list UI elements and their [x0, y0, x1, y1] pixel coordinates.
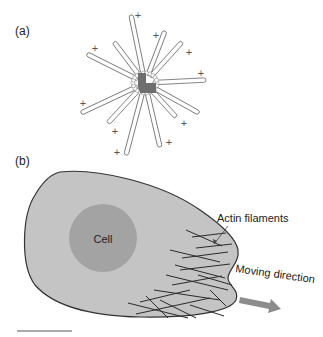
microtubule-aster [80, 15, 206, 156]
plus-end-marker: + [198, 67, 204, 79]
plus-end-marker: + [135, 9, 141, 21]
plus-end-marker: + [181, 117, 187, 129]
plus-end-marker: + [80, 97, 86, 109]
plus-end-marker: + [112, 125, 118, 137]
actin-filaments-label: Actin filaments [217, 212, 289, 224]
plus-end-marker: + [166, 136, 172, 148]
nucleus-label: Cell [94, 233, 113, 245]
moving-direction-arrow [239, 297, 281, 313]
panel-a-label: (a) [15, 24, 30, 38]
plus-end-marker: + [92, 42, 98, 54]
panel-b-label: (b) [15, 154, 30, 168]
plus-end-marker: + [153, 29, 159, 41]
plus-end-marker: + [114, 146, 120, 158]
pericentriolar-granule [155, 78, 159, 82]
moving-direction-label: Moving direction [235, 262, 316, 285]
figure: (a) ++++++++++ (b) Cell Actin filaments … [0, 0, 323, 337]
plus-end-marker: + [186, 46, 192, 58]
